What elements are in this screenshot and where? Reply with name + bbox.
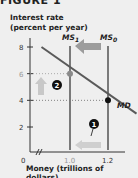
ms-label-1: MS1	[62, 33, 79, 43]
y-tick-label: 8	[19, 44, 23, 52]
md-label: MD	[117, 101, 131, 110]
equilibrium-point-initial	[105, 97, 111, 103]
y-tick-label: 4	[19, 97, 24, 105]
rate-rise-arrow	[35, 77, 47, 95]
y-tick-label: 2	[19, 124, 23, 132]
equilibrium-point-new	[67, 71, 73, 77]
callout-2-label: 2	[55, 82, 60, 90]
shift-arrow-bottom	[75, 140, 101, 150]
origin-label: 0	[21, 157, 25, 165]
callout-1-pointer	[91, 129, 93, 136]
x-tick-label: 1.2	[102, 157, 113, 165]
money-market-chart: 24681.01.20MS1MS0MD21	[0, 0, 138, 178]
x-tick-label: 1.0	[64, 157, 75, 165]
ms-label-0: MS0	[100, 33, 117, 43]
y-tick-label: 6	[19, 71, 24, 79]
callout-1-label: 1	[92, 121, 97, 129]
